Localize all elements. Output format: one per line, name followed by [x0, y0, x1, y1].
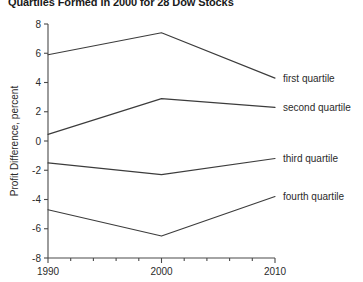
x-tick-label: 2000	[150, 266, 173, 277]
series-label-1: first quartile	[283, 73, 335, 84]
line-chart-plot: -8-6-4-202468 199020002010 first quartil…	[0, 0, 363, 282]
series-line	[48, 159, 275, 175]
series-line	[48, 197, 275, 236]
series-line	[48, 99, 275, 135]
y-axis: -8-6-4-202468	[32, 19, 48, 264]
series-label-4: fourth quartile	[283, 191, 345, 202]
y-tick-label: -8	[32, 253, 41, 264]
x-axis: 199020002010	[37, 258, 287, 277]
y-tick-label: 8	[35, 19, 41, 30]
data-series-group	[48, 33, 275, 236]
series-label-group: first quartilesecond quartilethird quart…	[283, 73, 351, 202]
y-axis-title: Profit Difference, percent	[9, 86, 20, 197]
y-tick-label: -6	[32, 223, 41, 234]
y-tick-label: -2	[32, 165, 41, 176]
chart-page: Quartiles Formed in 2000 for 28 Dow Stoc…	[0, 0, 363, 282]
x-tick-label: 1990	[37, 266, 60, 277]
series-line	[48, 33, 275, 78]
y-tick-label: -4	[32, 194, 41, 205]
y-tick-label: 2	[35, 106, 41, 117]
x-tick-label: 2010	[264, 266, 287, 277]
series-label-3: third quartile	[283, 153, 338, 164]
y-tick-label: 4	[35, 77, 41, 88]
series-label-2: second quartile	[283, 102, 351, 113]
y-tick-label: 0	[35, 136, 41, 147]
y-tick-label: 6	[35, 48, 41, 59]
